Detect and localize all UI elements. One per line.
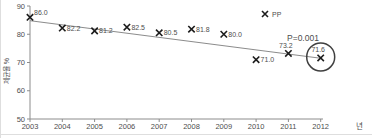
x-tick-label: 2006 [119, 122, 136, 131]
data-point-x-marker [253, 56, 259, 62]
y-tick-label: 60 [17, 86, 25, 95]
chart-panel: 9080706050200320042005200620072008200920… [0, 0, 372, 138]
data-point-x-marker [221, 31, 227, 37]
data-point-x-marker [124, 24, 130, 30]
y-tick-label: 90 [17, 2, 25, 11]
data-point-x-marker [59, 25, 65, 31]
x-tick-label: 2003 [22, 122, 39, 131]
x-tick-label: 2005 [86, 122, 103, 131]
data-point-label: 80.0 [228, 31, 242, 38]
p-value-annotation: P=0.001 [287, 33, 319, 43]
x-tick-label: 2012 [312, 122, 329, 131]
x-tick-label: 2004 [54, 122, 71, 131]
legend-label: PP [272, 11, 282, 18]
eradication-rate-chart: 9080706050200320042005200620072008200920… [0, 0, 372, 138]
y-axis-title: 제균율 % [3, 58, 11, 84]
data-point-label: 86.0 [34, 9, 48, 16]
data-point-label: 82.5 [131, 24, 145, 31]
y-tick-label: 70 [17, 58, 25, 67]
data-point-label: 80.5 [164, 29, 178, 36]
x-tick-label: 2010 [248, 122, 265, 131]
x-tick-label: 2009 [215, 122, 232, 131]
legend-x-marker-icon [262, 11, 268, 17]
data-point-label: 71.6 [311, 46, 325, 53]
data-point-label: 73.2 [279, 42, 293, 49]
x-tick-label: 2007 [151, 122, 168, 131]
data-point-label: 81.2 [99, 27, 113, 34]
x-axis-title: 년 [356, 121, 363, 131]
data-point-x-marker [156, 30, 162, 36]
y-tick-label: 80 [17, 30, 25, 39]
data-point-label: 71.0 [261, 56, 275, 63]
data-point-label: 82.2 [67, 25, 81, 32]
data-point-x-marker [188, 26, 194, 32]
x-tick-label: 2011 [280, 122, 296, 131]
x-tick-label: 2008 [183, 122, 200, 131]
data-point-label: 81.8 [196, 26, 210, 33]
